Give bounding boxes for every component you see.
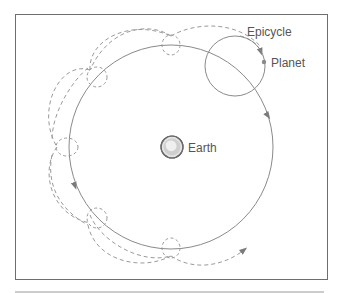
epicycle-diagram: Epicycle Planet Earth (0, 0, 341, 293)
planet-label: Planet (271, 56, 306, 70)
earth-icon (161, 136, 183, 158)
earth-label: Earth (188, 141, 217, 155)
planet-dot (262, 60, 266, 64)
epicycle-label: Epicycle (247, 25, 292, 39)
